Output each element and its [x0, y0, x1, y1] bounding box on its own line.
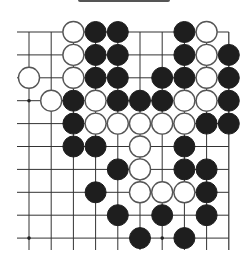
white-stone[interactable]: [196, 67, 217, 88]
star-point: [27, 99, 31, 103]
white-stone[interactable]: [174, 90, 195, 111]
black-stone[interactable]: [196, 113, 217, 134]
white-stone[interactable]: [130, 182, 151, 203]
black-stone[interactable]: [218, 67, 239, 88]
black-stone[interactable]: [130, 228, 151, 249]
black-stone[interactable]: [63, 113, 84, 134]
black-stone[interactable]: [152, 205, 173, 226]
black-stone[interactable]: [152, 67, 173, 88]
black-stone[interactable]: [107, 205, 128, 226]
black-stone[interactable]: [107, 90, 128, 111]
white-stone[interactable]: [130, 136, 151, 157]
black-stone[interactable]: [152, 90, 173, 111]
white-stone[interactable]: [85, 90, 106, 111]
white-stone[interactable]: [130, 113, 151, 134]
black-stone[interactable]: [196, 182, 217, 203]
white-stone[interactable]: [107, 113, 128, 134]
black-stone[interactable]: [218, 90, 239, 111]
black-stone[interactable]: [174, 159, 195, 180]
star-point: [160, 236, 164, 240]
white-stone[interactable]: [41, 90, 62, 111]
black-stone[interactable]: [63, 136, 84, 157]
black-stone[interactable]: [174, 228, 195, 249]
white-stone[interactable]: [196, 44, 217, 65]
white-stone[interactable]: [196, 22, 217, 43]
black-stone[interactable]: [85, 22, 106, 43]
black-stone[interactable]: [196, 159, 217, 180]
black-stone[interactable]: [174, 22, 195, 43]
black-stone[interactable]: [174, 136, 195, 157]
white-stone[interactable]: [63, 44, 84, 65]
white-stone[interactable]: [174, 113, 195, 134]
white-stone[interactable]: [130, 159, 151, 180]
go-board[interactable]: [0, 0, 252, 262]
black-stone[interactable]: [218, 44, 239, 65]
white-stone[interactable]: [174, 182, 195, 203]
black-stone[interactable]: [107, 22, 128, 43]
white-stone[interactable]: [196, 90, 217, 111]
black-stone[interactable]: [174, 67, 195, 88]
white-stone[interactable]: [152, 182, 173, 203]
white-stone[interactable]: [63, 67, 84, 88]
white-stone[interactable]: [19, 67, 40, 88]
star-point: [27, 236, 31, 240]
black-stone[interactable]: [107, 159, 128, 180]
black-stone[interactable]: [85, 182, 106, 203]
black-stone[interactable]: [130, 90, 151, 111]
black-stone[interactable]: [196, 205, 217, 226]
black-stone[interactable]: [85, 67, 106, 88]
black-stone[interactable]: [174, 44, 195, 65]
black-stone[interactable]: [107, 44, 128, 65]
black-stone[interactable]: [107, 67, 128, 88]
white-stone[interactable]: [85, 113, 106, 134]
black-stone[interactable]: [218, 113, 239, 134]
white-stone[interactable]: [152, 113, 173, 134]
white-stone[interactable]: [63, 22, 84, 43]
black-stone[interactable]: [63, 90, 84, 111]
black-stone[interactable]: [85, 44, 106, 65]
black-stone[interactable]: [85, 136, 106, 157]
